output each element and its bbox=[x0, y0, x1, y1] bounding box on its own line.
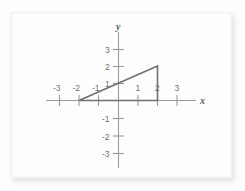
y-tick-label-2: 2 bbox=[105, 63, 110, 72]
y-tick-label-1: 1 bbox=[105, 80, 110, 89]
x-tick-label-1: 1 bbox=[136, 84, 141, 93]
x-tick-label-2: 2 bbox=[155, 84, 160, 93]
coordinate-plot bbox=[0, 0, 245, 191]
x-tick-label--3: -3 bbox=[53, 84, 61, 93]
x-tick-label--1: -1 bbox=[92, 84, 100, 93]
x-tick-label-3: 3 bbox=[175, 84, 180, 93]
y-axis-label: y bbox=[116, 22, 120, 32]
figure-scene: -3 -2 -1 1 2 3 3 2 1 -1 -2 -3 y x bbox=[0, 0, 245, 191]
x-tick-label--2: -2 bbox=[73, 84, 81, 93]
y-tick-label--3: -3 bbox=[102, 150, 110, 159]
y-tick-label--2: -2 bbox=[102, 133, 110, 142]
y-tick-label--1: -1 bbox=[102, 115, 110, 124]
x-axis-label: x bbox=[200, 96, 205, 106]
y-tick-label-3: 3 bbox=[105, 46, 110, 55]
